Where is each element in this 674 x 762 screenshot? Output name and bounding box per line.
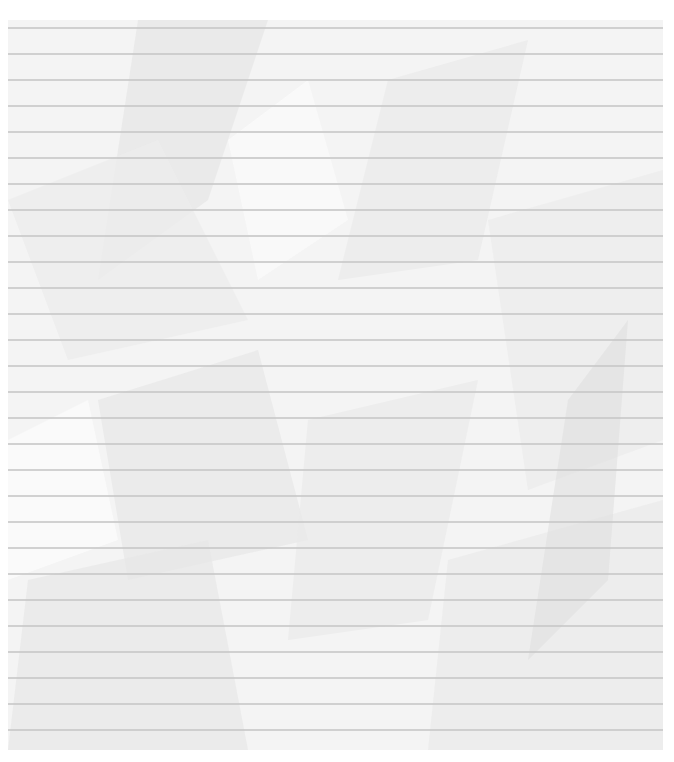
- ruled-line: [8, 287, 663, 289]
- ruled-line: [8, 677, 663, 679]
- ruled-line: [8, 183, 663, 185]
- ruled-line: [8, 495, 663, 497]
- lined-paper: [8, 20, 663, 750]
- ruled-line: [8, 729, 663, 731]
- ruled-line: [8, 339, 663, 341]
- ruled-line: [8, 27, 663, 29]
- ruled-line: [8, 391, 663, 393]
- ruled-line: [8, 209, 663, 211]
- ruled-line: [8, 105, 663, 107]
- crumple-shading: [8, 20, 663, 750]
- ruled-line: [8, 417, 663, 419]
- ruled-line: [8, 703, 663, 705]
- ruled-line: [8, 651, 663, 653]
- ruled-line: [8, 235, 663, 237]
- ruled-line: [8, 521, 663, 523]
- ruled-line: [8, 547, 663, 549]
- ruled-line: [8, 261, 663, 263]
- ruled-line: [8, 157, 663, 159]
- ruled-line: [8, 599, 663, 601]
- ruled-line: [8, 365, 663, 367]
- ruled-line: [8, 79, 663, 81]
- ruled-line: [8, 625, 663, 627]
- ruled-line: [8, 443, 663, 445]
- ruled-line: [8, 131, 663, 133]
- ruled-line: [8, 53, 663, 55]
- ruled-line: [8, 313, 663, 315]
- ruled-line: [8, 573, 663, 575]
- ruled-line: [8, 469, 663, 471]
